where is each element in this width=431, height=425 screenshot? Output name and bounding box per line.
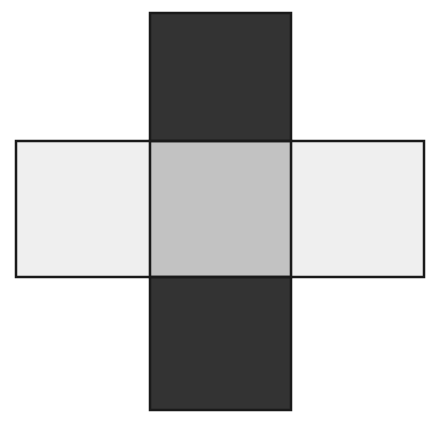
horizontal-rectangle[interactable] <box>16 141 424 277</box>
diagram-canvas <box>0 0 431 425</box>
overlapping-rectangles-figure <box>0 0 431 425</box>
